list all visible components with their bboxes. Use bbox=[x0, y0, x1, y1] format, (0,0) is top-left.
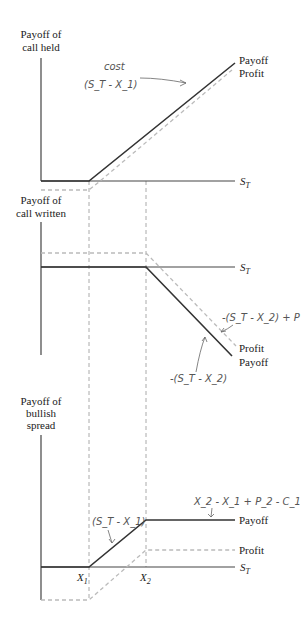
panel3-cap-arrow-icon bbox=[208, 508, 214, 517]
bullish-spread-diagram: Payoff of call held ST Payoff Profit cos… bbox=[0, 0, 306, 626]
x2-label: X2 bbox=[139, 571, 151, 586]
panel3-ylabel-line1: Payoff of bbox=[20, 395, 61, 407]
panel2-ylabel-line2: call written bbox=[16, 207, 66, 219]
panel2-payoff-arrow-icon bbox=[196, 337, 207, 372]
panel2-profit-arrow-icon bbox=[221, 325, 233, 332]
panel1-payoff-line bbox=[41, 63, 235, 181]
panel3-ylabel-line2: bullish bbox=[26, 407, 56, 419]
panel3-xlabel: ST bbox=[240, 561, 251, 576]
panel1-legend-profit: Profit bbox=[239, 67, 264, 79]
panel2-xlabel: ST bbox=[240, 261, 251, 276]
panel3-legend-profit: Profit bbox=[239, 544, 264, 556]
panel1-ylabel-line2: call held bbox=[22, 41, 60, 53]
panel3-payoff-line bbox=[41, 520, 235, 567]
panel2-annotation-payoff: -(S_T - X_2) bbox=[170, 373, 227, 385]
x1-label: X1 bbox=[76, 571, 88, 586]
panel-call-held: Payoff of call held ST Payoff Profit cos… bbox=[20, 28, 268, 190]
panel3-annotation-cap: X_2 - X_1 + P_2 - C_1 bbox=[193, 496, 301, 508]
panel-call-written: Payoff of call written ST Profit Payoff … bbox=[16, 194, 301, 385]
panel2-legend-profit: Profit bbox=[239, 342, 264, 354]
panel3-ylabel-line3: spread bbox=[27, 419, 56, 431]
panel1-annotation-small: cost bbox=[104, 61, 126, 72]
panel2-annotation-profit: -(S_T - X_2) + P bbox=[222, 312, 301, 324]
panel-bullish-spread: Payoff of bullish spread ST X1 X2 Payoff… bbox=[20, 395, 300, 600]
panel1-legend-payoff: Payoff bbox=[239, 54, 268, 66]
panel3-annotation-slope: (S_T - X_1) bbox=[92, 516, 145, 528]
panel1-ylabel-line1: Payoff of bbox=[20, 28, 61, 40]
panel3-profit-line bbox=[41, 550, 235, 600]
panel1-annotation: (S_T - X_1) bbox=[84, 79, 137, 91]
panel3-legend-payoff: Payoff bbox=[239, 514, 268, 526]
panel1-annotation-arrow-icon bbox=[140, 78, 186, 86]
panel2-ylabel-line1: Payoff of bbox=[20, 194, 61, 206]
panel3-slope-arrow-icon bbox=[108, 530, 115, 543]
panel1-xlabel: ST bbox=[240, 175, 251, 190]
panel2-legend-payoff: Payoff bbox=[239, 356, 268, 368]
